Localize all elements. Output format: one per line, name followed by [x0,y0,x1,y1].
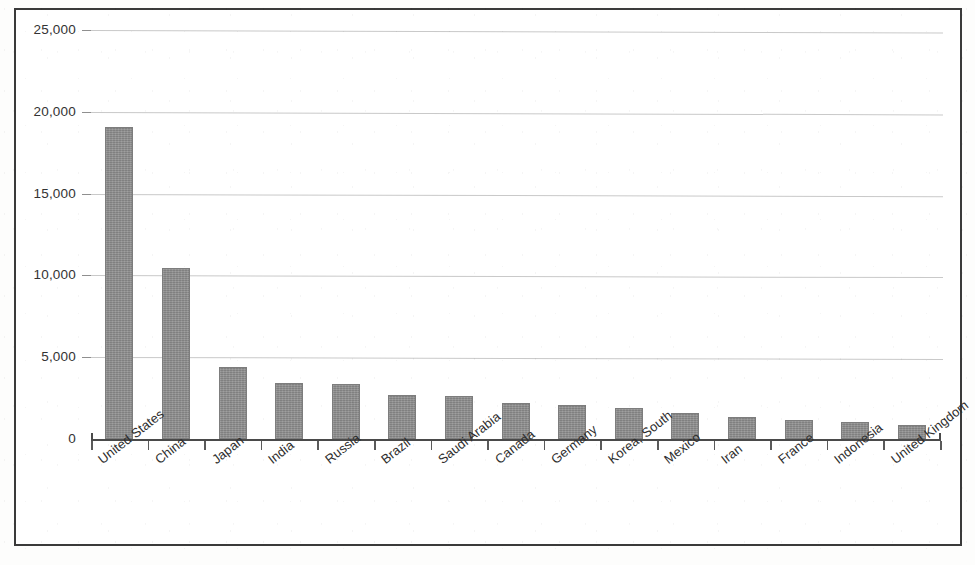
x-axis-tick-mark [317,441,319,450]
x-axis-tick-mark [374,441,376,450]
x-axis-category-label: India [265,437,297,466]
y-axis-tick-label: 20,000 [14,105,76,119]
bar [162,268,190,439]
x-axis-right-cap [939,433,941,441]
y-axis-tick-label: 0 [14,432,76,446]
gridline [91,112,943,115]
bar [219,367,247,439]
x-axis-tick-mark [261,441,263,450]
bar [728,417,756,439]
y-axis-tick-mark [82,112,91,113]
y-axis-tick-label: 10,000 [14,268,76,282]
x-axis-tick-mark [600,441,602,450]
x-axis-tick-mark [487,441,489,450]
gridline [91,30,943,34]
x-axis-tick-mark [940,441,942,450]
x-axis-tick-mark [204,441,206,450]
bar [388,395,416,439]
plot-area: 05,00010,00015,00020,00025,000 United St… [0,0,975,565]
x-axis-category-label: Iran [718,441,745,467]
x-axis-tick-mark [148,441,150,450]
y-axis-tick-mark [82,357,91,358]
chart-page: 05,00010,00015,00020,00025,000 United St… [0,0,975,565]
y-axis-tick-mark [82,30,91,31]
x-axis-tick-mark [544,441,546,450]
x-axis-tick-mark [883,441,885,450]
y-axis-tick-label: 5,000 [14,350,76,364]
x-axis-left-cap [91,433,93,441]
x-axis-tick-mark [657,441,659,450]
x-axis-tick-mark [827,441,829,450]
x-axis-tick-mark [91,441,93,450]
y-axis-tick-label: 15,000 [14,187,76,201]
gridline [91,357,943,360]
bar [105,127,133,439]
gridline [91,275,943,278]
x-axis-tick-mark [770,441,772,450]
y-axis-tick-mark [82,194,91,195]
y-axis-tick-mark [82,275,91,276]
x-axis-tick-mark [431,441,433,450]
bar [275,383,303,439]
bar [332,384,360,439]
y-axis-tick-label: 25,000 [14,23,76,37]
x-axis-tick-mark [714,441,716,450]
gridline [91,194,943,197]
